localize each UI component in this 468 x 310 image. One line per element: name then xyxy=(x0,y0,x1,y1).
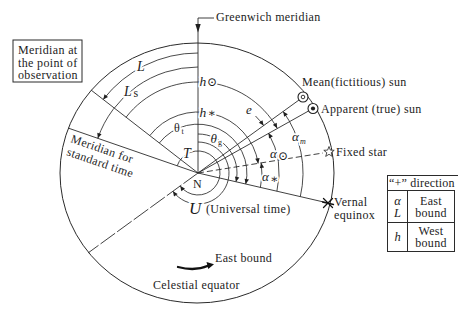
fixed-star-label: Fixed star xyxy=(336,145,387,159)
label-ra-apparent-sun: α xyxy=(270,146,278,161)
direction-word-2: bound xyxy=(415,207,447,219)
label-ra-star: α xyxy=(262,169,270,184)
sign-convention-table: “+” direction α L East bound h West boun… xyxy=(387,175,458,252)
label-ra-star-sub: ∗ xyxy=(270,172,279,186)
asterisk-cross-icon xyxy=(323,199,334,208)
mean-sun-label: Mean(fictitious) sun xyxy=(302,75,407,89)
vernal-equinox-label-2: equinox xyxy=(334,208,375,222)
table-row: h West bound xyxy=(388,222,454,251)
symbol-longitude: L xyxy=(394,207,401,219)
label-local-sidereal-time-sub: t xyxy=(182,127,185,136)
arc-hour-angle-star xyxy=(150,112,258,163)
symbol-alpha: α xyxy=(394,195,401,207)
direction-word-2: bound xyxy=(415,237,447,249)
vernal-equinox-label-1: Vernal xyxy=(334,195,368,209)
label-ra-mean-sun-sub: m xyxy=(300,137,306,146)
label-local-sidereal-time: θ xyxy=(174,121,180,135)
sign-table-direction: West bound xyxy=(408,223,454,251)
celestial-equator-label: Celestial equator xyxy=(153,278,240,292)
label-ra-mean-sun: α xyxy=(292,129,300,144)
label-ra-apparent-sun-sub: ⊙ xyxy=(278,149,288,163)
arc-local-sidereal-time xyxy=(159,124,247,184)
universal-time-label: (Universal time) xyxy=(206,202,291,216)
label-hour-angle-sun: h xyxy=(200,74,207,89)
observation-meridian-line-3: observation xyxy=(18,68,78,82)
sign-table-symbols: α L xyxy=(388,191,408,222)
label-greenwich-sidereal-time: θ xyxy=(211,131,218,146)
arc-longitude xyxy=(103,53,198,100)
label-standard-time: T xyxy=(183,146,192,161)
table-row: α L East bound xyxy=(388,191,454,222)
greenwich-meridian-line xyxy=(198,18,214,173)
sign-table-body: α L East bound h West bound xyxy=(387,190,455,252)
label-hour-angle-star: h xyxy=(200,105,207,120)
sign-table-symbols: h xyxy=(388,223,408,251)
center-label: N xyxy=(193,177,202,191)
sign-table-direction: East bound xyxy=(408,191,454,222)
symbol-hour-angle: h xyxy=(394,231,400,243)
label-longitude: L xyxy=(136,59,145,74)
direction-word-1: East xyxy=(420,195,442,207)
curved-arrow-right-icon xyxy=(178,262,214,269)
sign-table-header: “+” direction xyxy=(387,175,458,190)
apparent-sun-label: Apparent (true) sun xyxy=(321,102,422,116)
mean-sun-icon xyxy=(298,92,308,102)
label-longitude-standard-sub: s xyxy=(134,86,139,100)
apparent-sun-icon xyxy=(308,104,318,114)
fixed-star-line xyxy=(198,153,323,173)
universal-time-symbol: U xyxy=(189,199,203,218)
diagram-canvas: Greenwich meridian L L s h ⊙ h ∗ θ t θ g… xyxy=(0,0,468,310)
label-longitude-standard: L xyxy=(123,84,132,99)
arc-equation-of-time xyxy=(256,116,264,126)
label-greenwich-sidereal-time-sub: g xyxy=(218,138,222,147)
label-equation-of-time: e xyxy=(246,102,252,117)
east-bound-label: East bound xyxy=(215,251,272,265)
mean-sun-antimeridian-line xyxy=(88,173,198,253)
greenwich-meridian-label: Greenwich meridian xyxy=(216,10,321,24)
arrow-down-icon xyxy=(195,24,200,33)
label-hour-angle-star-mark: ∗ xyxy=(208,106,217,120)
celestial-time-diagram: Greenwich meridian L L s h ⊙ h ∗ θ t θ g… xyxy=(0,0,468,310)
label-hour-angle-sun-mark: ⊙ xyxy=(207,75,217,89)
